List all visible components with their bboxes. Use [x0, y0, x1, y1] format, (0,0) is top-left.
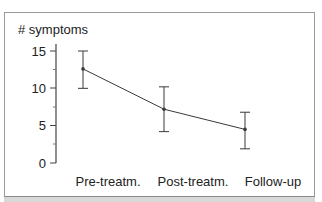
- y-tick-label-5: 5: [39, 118, 46, 133]
- x-category-follow-up: Follow-up: [245, 174, 301, 189]
- y-tick-label-10: 10: [32, 81, 46, 96]
- y-axis-ticks: [50, 51, 56, 163]
- error-bar-line-chart: # symptoms 15 10 5 0 Pre-treatm. Post-tr…: [0, 0, 322, 202]
- y-tick-label-15: 15: [32, 44, 46, 59]
- data-point-marker: [162, 107, 166, 111]
- x-category-post-treatment: Post-treatm.: [158, 174, 229, 189]
- y-tick-label-0: 0: [39, 156, 46, 171]
- data-point-marker: [81, 67, 85, 71]
- y-axis-label: # symptoms: [18, 22, 89, 37]
- error-bars: [78, 51, 250, 149]
- x-category-pre-treatment: Pre-treatm.: [75, 174, 140, 189]
- data-point-marker: [243, 128, 247, 132]
